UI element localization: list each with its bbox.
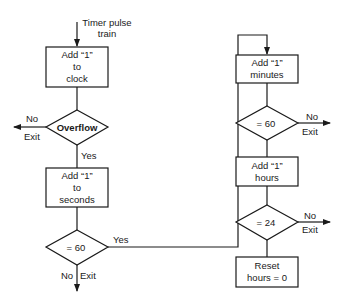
- node-line: to: [73, 61, 81, 73]
- overflow-no-label: No: [26, 113, 38, 124]
- seconds-yes-label: Yes: [113, 234, 129, 245]
- reset-hours-text: Reset hours = 0: [236, 257, 298, 287]
- add-seconds-text: Add “1” to seconds: [46, 168, 108, 207]
- hours-no-label: No: [304, 210, 316, 221]
- node-line: seconds: [59, 194, 94, 206]
- add-hours-text: Add “1” hours: [236, 157, 298, 186]
- node-line: Add “1”: [251, 57, 282, 69]
- overflow-text: Overflow: [46, 118, 108, 136]
- add-minutes-text: Add “1” minutes: [236, 55, 298, 83]
- seconds-no-label: No: [61, 270, 73, 281]
- entry-label-line: train: [82, 28, 132, 39]
- node-line: to: [73, 182, 81, 194]
- node-line: Reset: [255, 260, 280, 272]
- entry-label-line: Timer pulse: [82, 17, 132, 28]
- node-line: Add “1”: [251, 160, 282, 172]
- seconds-exit-label: Exit: [80, 270, 96, 281]
- overflow-exit-label: Exit: [24, 131, 40, 142]
- entry-label: Timer pulse train: [82, 17, 132, 39]
- hours-24-text: = 24: [240, 213, 292, 231]
- node-line: hours: [255, 172, 279, 184]
- node-line: clock: [66, 73, 88, 85]
- minutes-exit-label: Exit: [302, 126, 318, 137]
- node-line: Add “1”: [61, 49, 92, 61]
- overflow-yes-label: Yes: [81, 150, 97, 161]
- node-line: minutes: [250, 69, 283, 81]
- minutes-no-label: No: [306, 111, 318, 122]
- seconds-60-text: = 60: [50, 238, 102, 256]
- minutes-60-text: = 60: [240, 114, 292, 132]
- add-clock-text: Add “1” to clock: [46, 47, 108, 87]
- node-line: hours = 0: [247, 272, 287, 284]
- node-line: Add “1”: [61, 170, 92, 182]
- hours-exit-label: Exit: [302, 224, 318, 235]
